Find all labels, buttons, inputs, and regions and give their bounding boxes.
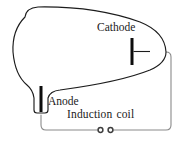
cathode-bar <box>131 38 134 65</box>
coil-terminals-group <box>98 128 113 133</box>
anode-label: Anode <box>48 96 79 108</box>
anode-electrode <box>40 86 43 112</box>
diagram-canvas <box>0 0 190 145</box>
anode-bar <box>40 86 43 112</box>
induction-coil-label-word1: Induction <box>67 108 112 120</box>
cathode-label: Cathode <box>97 22 135 34</box>
induction-coil-label: Inductioncoil <box>67 109 134 121</box>
discharge-tube-diagram: Cathode Anode Inductioncoil <box>0 0 190 145</box>
coil-terminal-left <box>98 128 103 133</box>
coil-terminal-right <box>108 128 113 133</box>
induction-coil-label-word2: coil <box>116 108 134 120</box>
vacuum-tube-bulb <box>13 7 166 113</box>
bulb-outline <box>13 7 166 113</box>
